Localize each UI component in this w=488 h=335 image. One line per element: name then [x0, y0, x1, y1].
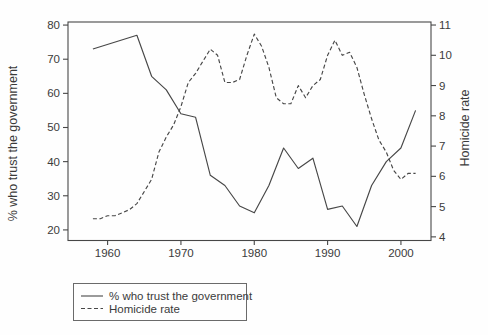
series-line-trust-in-government — [93, 35, 416, 226]
x-tick-label: 1980 — [241, 247, 267, 259]
left-tick-label: 70 — [47, 53, 60, 65]
left-tick-label: 50 — [47, 121, 60, 133]
right-tick-label: 10 — [439, 49, 452, 61]
left-tick-label: 40 — [47, 156, 60, 168]
x-tick-label: 1990 — [315, 247, 341, 259]
right-tick-label: 4 — [439, 231, 446, 243]
axis-ticks: 1960197019801990200020304050607080456789… — [47, 19, 452, 258]
right-tick-label: 5 — [439, 201, 445, 213]
x-tick-label: 1970 — [168, 247, 194, 259]
right-tick-label: 8 — [439, 110, 445, 122]
data-series — [93, 34, 416, 226]
right-tick-label: 9 — [439, 80, 445, 92]
right-tick-label: 6 — [439, 170, 445, 182]
chart-figure: 1960197019801990200020304050607080456789… — [0, 0, 488, 335]
x-tick-label: 2000 — [388, 247, 414, 259]
left-tick-label: 60 — [47, 87, 60, 99]
left-tick-label: 30 — [47, 190, 60, 202]
right-tick-label: 11 — [439, 19, 451, 31]
plot-border — [68, 22, 431, 241]
x-tick-label: 1960 — [95, 247, 121, 259]
trust-vs-homicide-chart: 1960197019801990200020304050607080456789… — [0, 0, 488, 335]
left-tick-label: 80 — [47, 19, 60, 31]
right-tick-label: 7 — [439, 140, 445, 152]
left-axis-title: % who trust the government — [6, 65, 20, 221]
left-tick-label: 20 — [47, 224, 60, 236]
legend-label-homicide: Homicide rate — [109, 303, 180, 315]
series-line-homicide-rate — [93, 34, 416, 219]
legend-label-trust: % who trust the government — [109, 290, 253, 302]
legend: % who trust the government Homicide rate — [74, 284, 253, 321]
right-axis-title: Homicide rate — [458, 89, 472, 166]
